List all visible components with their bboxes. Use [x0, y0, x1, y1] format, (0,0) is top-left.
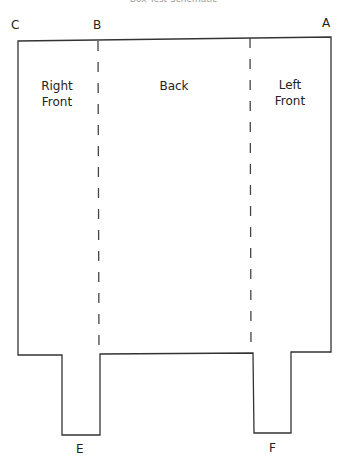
corner-label-f: F — [269, 441, 276, 455]
box-schematic: C B A E F Right Front Back Left Front — [0, 0, 347, 471]
corner-label-c: C — [11, 18, 19, 32]
corner-label-b: B — [93, 18, 101, 32]
panel-label-right-front-2: Front — [42, 95, 73, 109]
panel-label-right-front-1: Right — [41, 79, 73, 93]
panel-label-back: Back — [159, 79, 188, 93]
corner-label-e: E — [76, 442, 84, 456]
panel-label-left-front-2: Front — [275, 94, 306, 108]
fold-line-b — [98, 41, 99, 354]
corner-label-a: A — [322, 16, 331, 30]
fold-line-right — [250, 38, 251, 353]
panel-label-left-front-1: Left — [279, 78, 302, 92]
